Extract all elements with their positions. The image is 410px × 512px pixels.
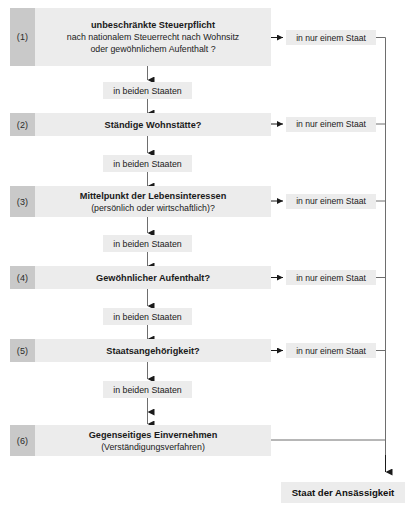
step-4-down-label: in beiden Staaten xyxy=(103,308,192,325)
step-row-6[interactable]: (6) Gegenseitiges Einvernehmen (Verständ… xyxy=(10,425,271,456)
step-row-4[interactable]: (4) Gewöhnlicher Aufenthalt? xyxy=(10,266,271,289)
step-subtitle-1-line1: nach nationalem Steuerrecht nach Wohnsit… xyxy=(67,31,239,43)
step-title-1: unbeschränkte Steuerpflicht xyxy=(91,19,215,31)
step-5-exit-label: in nur einem Staat xyxy=(286,343,376,358)
step-number-6: (6) xyxy=(10,425,35,456)
result-label: Staat der Ansässigkeit xyxy=(292,487,395,498)
step-number-1: (1) xyxy=(10,8,35,66)
step-3-exit-label: in nur einem Staat xyxy=(286,194,376,209)
step-subtitle-3: (persönlich oder wirtschaftlich)? xyxy=(91,202,215,214)
step-number-2: (2) xyxy=(10,113,35,136)
step-row-5[interactable]: (5) Staatsangehörigkeit? xyxy=(10,339,271,362)
flowchart-canvas: (1) unbeschränkte Steuerpflicht nach nat… xyxy=(0,0,410,512)
step-4-exit-label: in nur einem Staat xyxy=(286,270,376,285)
step-title-5: Staatsangehörigkeit? xyxy=(106,345,199,357)
step-3-down-label: in beiden Staaten xyxy=(103,235,192,252)
step-body-5: Staatsangehörigkeit? xyxy=(35,339,271,362)
step-2-exit-label: in nur einem Staat xyxy=(286,117,376,132)
step-5-down-label: in beiden Staaten xyxy=(103,381,192,398)
step-subtitle-6: (Verständigungsverfahren) xyxy=(101,441,205,453)
step-number-3: (3) xyxy=(10,186,35,217)
step-title-3: Mittelpunkt der Lebensinteressen xyxy=(80,190,227,202)
step-2-down-label: in beiden Staaten xyxy=(103,155,192,172)
step-body-1: unbeschränkte Steuerpflicht nach nationa… xyxy=(35,8,271,66)
step-number-4: (4) xyxy=(10,266,35,289)
step-body-3: Mittelpunkt der Lebensinteressen (persön… xyxy=(35,186,271,217)
step-number-5: (5) xyxy=(10,339,35,362)
step-title-4: Gewöhnlicher Aufenthalt? xyxy=(96,272,210,284)
step-1-exit-label: in nur einem Staat xyxy=(286,30,376,45)
step-body-6: Gegenseitiges Einvernehmen (Verständigun… xyxy=(35,425,271,456)
step-row-2[interactable]: (2) Ständige Wohnstätte? xyxy=(10,113,271,136)
step-row-3[interactable]: (3) Mittelpunkt der Lebensinteressen (pe… xyxy=(10,186,271,217)
step-body-4: Gewöhnlicher Aufenthalt? xyxy=(35,266,271,289)
result-box: Staat der Ansässigkeit xyxy=(281,482,405,503)
step-body-2: Ständige Wohnstätte? xyxy=(35,113,271,136)
step-title-2: Ständige Wohnstätte? xyxy=(105,119,202,131)
step-subtitle-1-line2: oder gewöhnlichem Aufenthalt ? xyxy=(90,43,215,55)
step-1-down-label: in beiden Staaten xyxy=(103,82,192,99)
step-title-6: Gegenseitiges Einvernehmen xyxy=(89,429,218,441)
step-row-1[interactable]: (1) unbeschränkte Steuerpflicht nach nat… xyxy=(10,8,271,66)
